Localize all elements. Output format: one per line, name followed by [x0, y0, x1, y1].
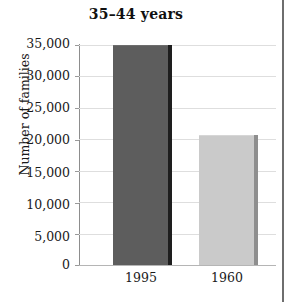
y-tick-label-30000: 30,000 [0, 70, 70, 83]
bar-1960-face [199, 135, 254, 265]
gridline-25000 [79, 108, 276, 109]
gridline-30000 [79, 76, 276, 77]
bar-1995-side-shadow [168, 45, 172, 265]
gridline-baseline-0 [79, 265, 276, 266]
y-tick-label-20000: 20,000 [0, 134, 70, 147]
x-tick-label-1960: 1960 [191, 270, 263, 285]
bar-1960 [199, 135, 254, 265]
bar-1995-top-edge [113, 45, 168, 46]
y-tick-label-15000: 15,000 [0, 167, 70, 180]
y-tick-label-25000: 25,000 [0, 102, 70, 115]
bar-chart-figure: 35–44 years Number of families 35,000 30… [0, 0, 292, 302]
page-edge-rule [282, 0, 284, 302]
chart-title: 35–44 years [0, 6, 272, 22]
bar-1960-side-shadow [254, 135, 258, 265]
x-tick-label-1995: 1995 [105, 270, 177, 285]
plot-area [79, 45, 276, 265]
y-tick-label-5000: 5,000 [0, 231, 70, 244]
bar-1995-face [113, 45, 168, 265]
y-tick-label-10000: 10,000 [0, 199, 70, 212]
gridline-35000 [79, 45, 276, 46]
y-tick-label-0: 0 [0, 259, 70, 272]
y-tick-label-35000: 35,000 [0, 38, 70, 51]
bar-1995 [113, 45, 168, 265]
bar-1960-top-edge [199, 135, 254, 136]
